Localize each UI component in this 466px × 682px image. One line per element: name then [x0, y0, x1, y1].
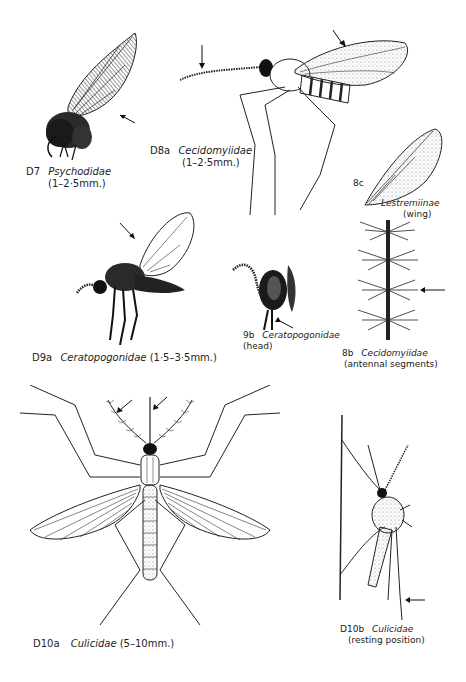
taxon-name: Lestremiinae: [381, 198, 440, 208]
figure-d10a-caption: D10a Culicidae (5–10mm.): [33, 638, 174, 650]
midge-head-icon: [228, 250, 308, 330]
figure-subtitle: (head): [243, 341, 340, 352]
figure-d10b-culicidae-resting-drawing: [330, 415, 440, 625]
figure-d10b-caption: D10b Culicidae (resting position): [340, 624, 425, 646]
biting-midge-icon: [55, 205, 195, 345]
taxon-name: Cecidomyiidae: [178, 145, 252, 156]
figure-subtitle: (wing): [381, 209, 440, 220]
figure-code: 8b: [342, 348, 353, 358]
moth-fly-icon: [20, 25, 145, 160]
figure-8b-caption: 8b Cecidomyiidae (antennal segments): [342, 348, 438, 370]
figure-9b-caption: 9b Ceratopogonidae (head): [243, 330, 340, 352]
taxon-name: Cecidomyiidae: [361, 348, 427, 358]
taxon-name: Psychodidae: [48, 166, 111, 177]
figure-8c-caption: Lestremiinae (wing): [381, 198, 440, 220]
figure-code: D9a: [32, 352, 52, 363]
wing-icon: [355, 127, 445, 207]
figure-subtitle: (resting position): [340, 635, 425, 646]
figure-code: 9b: [243, 330, 254, 340]
size-range: (1–2·5mm.): [26, 178, 111, 190]
size-range: (5–10mm.): [120, 638, 175, 649]
figure-code: D7: [26, 166, 40, 177]
figure-code: D10a: [33, 638, 60, 649]
mosquito-resting-icon: [330, 415, 440, 625]
figure-subtitle: (antennal segments): [342, 359, 438, 370]
taxon-name: Ceratopogonidae: [60, 352, 146, 363]
figure-9b-ceratopogonidae-head-drawing: [228, 250, 308, 330]
figure-code: 8c: [353, 178, 364, 188]
figure-d9a-caption: D9a Ceratopogonidae (1·5–3·5mm.): [32, 352, 217, 364]
figure-code: D8a: [150, 145, 170, 156]
antenna-segments-icon: [350, 220, 450, 340]
figure-d9a-ceratopogonidae-drawing: [55, 205, 195, 345]
figure-8c-code: 8c: [353, 178, 364, 189]
size-range: (1·5–3·5mm.): [150, 352, 217, 363]
taxon-name: Ceratopogonidae: [262, 330, 339, 340]
figure-d7-psychodidae-drawing: [20, 25, 145, 160]
figure-d7-caption: D7 Psychodidae (1–2·5mm.): [26, 166, 111, 190]
figure-8c-lestremiinae-wing-drawing: [355, 127, 445, 207]
mosquito-dorsal-icon: [20, 385, 280, 630]
taxon-name: Culicidae: [372, 624, 413, 634]
figure-code: D10b: [340, 624, 364, 634]
size-range: (1–2·5mm.): [150, 157, 252, 169]
figure-d8a-caption: D8a Cecidomyiidae (1–2·5mm.): [150, 145, 252, 169]
taxon-name: Culicidae: [71, 638, 117, 649]
figure-8b-antennal-segments-drawing: [350, 220, 450, 340]
figure-d10a-culicidae-drawing: [20, 385, 280, 630]
